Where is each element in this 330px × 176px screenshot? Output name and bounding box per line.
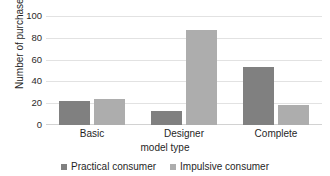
x-tick-label-complete: Complete [230,128,322,139]
bar-basic-impulsive[interactable] [94,99,125,125]
bar-complete-practical[interactable] [243,67,274,125]
y-tick-label-0: 0 [8,120,42,130]
legend-swatch-icon-impulsive [170,164,176,170]
bar-group-basic [46,16,138,125]
y-tick-label-100: 100 [8,11,42,21]
legend-entry-practical-consumer[interactable]: Practical consumer [61,161,156,172]
legend-swatch-icon-practical [61,164,67,170]
plot-area [46,16,322,125]
y-tick-label-20: 20 [8,98,42,108]
bar-chart-figure: Number of purchasers 100 80 60 40 20 0 B… [0,0,330,176]
chart-legend: Practical consumer Impulsive consumer [0,161,330,172]
bar-designer-practical[interactable] [151,111,182,125]
bar-complete-impulsive[interactable] [278,105,309,125]
bar-basic-practical[interactable] [59,101,90,125]
x-tick-label-designer: Designer [138,128,230,139]
legend-entry-impulsive-consumer[interactable]: Impulsive consumer [170,161,269,172]
x-axis-title: model type [0,142,330,153]
y-tick-label-60: 60 [8,55,42,65]
bar-designer-impulsive[interactable] [186,30,217,125]
legend-label-practical: Practical consumer [71,161,156,172]
x-tick-label-basic: Basic [46,128,138,139]
legend-label-impulsive: Impulsive consumer [180,161,269,172]
bar-group-designer [138,16,230,125]
bar-group-complete [230,16,322,125]
y-tick-label-80: 80 [8,33,42,43]
y-tick-label-40: 40 [8,77,42,87]
